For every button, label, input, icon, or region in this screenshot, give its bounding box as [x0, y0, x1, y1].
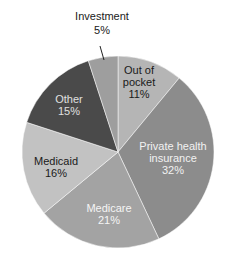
label-private-insurance-2: insurance [149, 152, 197, 164]
label-other-pct: 15% [58, 105, 80, 117]
pie-chart: Investment 5% Out of pocket 11% Other 15… [0, 0, 227, 266]
label-investment-pct: 5% [94, 24, 110, 36]
label-medicaid-pct: 16% [45, 167, 67, 179]
label-out-of-pocket-2: pocket [123, 76, 155, 88]
label-private-insurance-pct: 32% [162, 164, 184, 176]
label-investment: Investment [75, 10, 129, 22]
label-medicaid: Medicaid [34, 155, 78, 167]
label-medicare-pct: 21% [98, 214, 120, 226]
label-out-of-pocket-pct: 11% [128, 88, 149, 100]
label-out-of-pocket: Out of [124, 64, 155, 76]
label-other: Other [55, 93, 83, 105]
label-private-insurance: Private health [139, 140, 206, 152]
label-medicare: Medicare [86, 202, 131, 214]
